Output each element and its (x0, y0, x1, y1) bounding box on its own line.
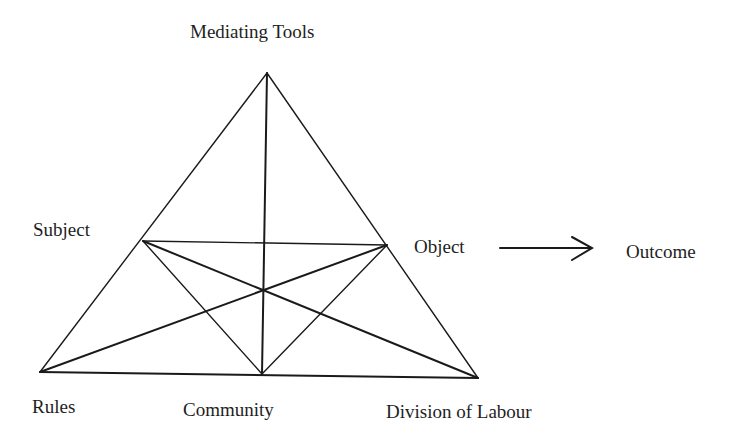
activity-system-diagram: Mediating Tools Subject Object Outcome R… (0, 0, 737, 448)
label-object: Object (414, 236, 465, 257)
arrow-object-outcome (500, 237, 592, 260)
label-rules: Rules (32, 396, 75, 417)
label-division-of-labour: Division of Labour (386, 401, 532, 422)
edge-tools-community (262, 73, 267, 374)
label-outcome: Outcome (626, 241, 696, 262)
edge-rules-object (40, 245, 387, 372)
edge-tools-division (267, 73, 478, 378)
label-mediating-tools: Mediating Tools (190, 21, 314, 42)
edge-subject-community (143, 241, 262, 374)
label-community: Community (183, 399, 274, 420)
edge-subject-division (143, 241, 478, 378)
edge-rules-division (40, 372, 478, 378)
label-subject: Subject (33, 219, 91, 240)
edge-object-community (262, 245, 387, 374)
